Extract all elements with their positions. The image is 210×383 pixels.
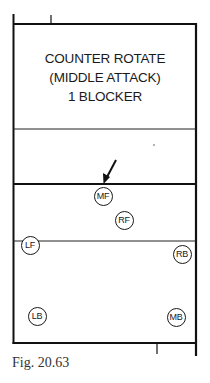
title-line-3: 1 BLOCKER (14, 87, 196, 106)
player-lf-icon: LF (21, 236, 40, 255)
diagram-title: COUNTER ROTATE (MIDDLE ATTACK) 1 BLOCKER (14, 49, 196, 106)
title-line-1: COUNTER ROTATE (14, 49, 196, 68)
title-line-2: (MIDDLE ATTACK) (14, 68, 196, 87)
speck (153, 144, 155, 146)
player-rb-icon: RB (173, 245, 192, 264)
player-lb-icon: LB (28, 307, 47, 326)
figure-caption: Fig. 20.63 (12, 355, 69, 371)
player-mf-icon: MF (94, 187, 113, 206)
player-mb-icon: MB (167, 308, 186, 327)
player-rf-icon: RF (115, 211, 134, 230)
attack-arrow-shaft (107, 160, 116, 177)
